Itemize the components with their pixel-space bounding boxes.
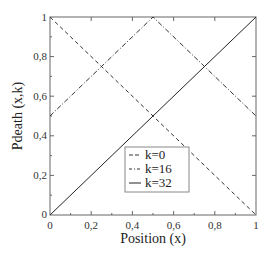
x-axis-label: Position (x) <box>120 231 186 247</box>
y-tick-label: 0 <box>42 208 48 220</box>
legend-label-k16: k=16 <box>145 161 172 176</box>
y-axis-label: Pdeath (x,k) <box>10 81 26 150</box>
x-tick-label: 0 <box>47 219 53 231</box>
y-tick-label: 0,4 <box>33 129 47 141</box>
x-tick-label: 0,2 <box>84 219 98 231</box>
series-k16-line <box>50 17 256 116</box>
chart: 0 0,2 0,4 0,6 0,8 1 0 0,2 0,4 0,6 0,8 1 … <box>0 0 269 256</box>
x-tick-label: 0,8 <box>208 219 222 231</box>
y-tick-label: 0,8 <box>33 50 47 62</box>
x-tick-label: 0,6 <box>167 219 181 231</box>
legend-label-k0: k=0 <box>145 147 165 162</box>
legend: k=0 k=16 k=32 <box>125 147 189 192</box>
y-tick-label: 1 <box>42 11 48 23</box>
x-tick-label: 1 <box>253 219 259 231</box>
y-tick-label: 0,2 <box>33 169 47 181</box>
x-tick-label: 0,4 <box>126 219 140 231</box>
y-tick-label: 0,6 <box>33 90 47 102</box>
legend-label-k32: k=32 <box>145 175 172 190</box>
